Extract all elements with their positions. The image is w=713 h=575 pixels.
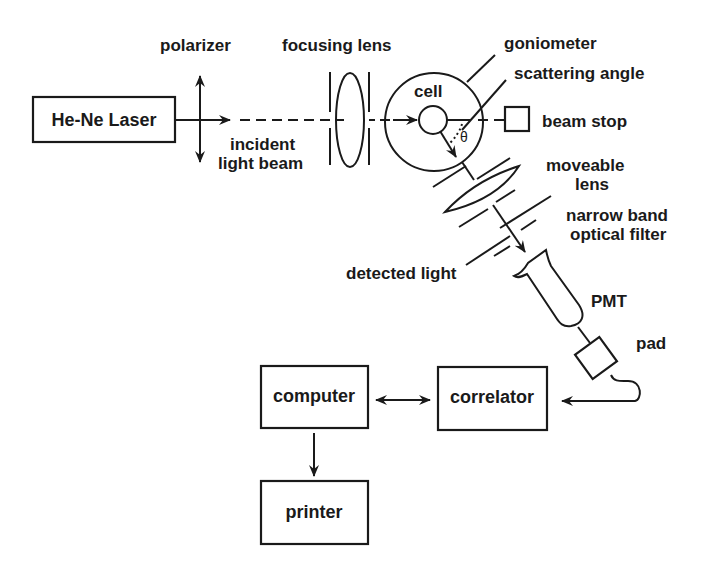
moveable-lens-label-2: lens (575, 175, 609, 194)
goniometer-label: goniometer (504, 34, 597, 53)
focusing-lens-label: focusing lens (282, 36, 392, 55)
incident-beam-label-1: incident (230, 135, 296, 154)
moveable-lens-label-1: moveable (546, 156, 624, 175)
scattering-angle-label: scattering angle (514, 64, 644, 83)
pmt-pad-connector (578, 327, 590, 343)
moveable-lens-icon (433, 158, 519, 227)
theta-symbol: θ (460, 129, 468, 145)
incident-beam-label-2: light beam (218, 154, 303, 173)
detected-light-label: detected light (346, 264, 457, 283)
computer-block: computer (261, 366, 368, 428)
laser-label: He-Ne Laser (51, 110, 156, 130)
cable-arrow-icon (562, 375, 640, 401)
pad-label: pad (636, 334, 666, 353)
light-scattering-diagram: He-Ne Laser polarizer incident light bea… (0, 0, 713, 575)
scattered-beam-arrow-icon (440, 131, 456, 157)
filter-label-2: optical filter (570, 225, 667, 244)
polarizer-label: polarizer (160, 36, 231, 55)
pad-icon (575, 337, 617, 379)
pmt-label: PMT (591, 292, 628, 311)
beam-stop-icon (505, 107, 529, 131)
scattered-beam-line (462, 162, 474, 180)
pmt-icon (514, 250, 582, 326)
beam-stop-label: beam stop (542, 112, 627, 131)
focusing-lens-icon (330, 72, 369, 167)
printer-label: printer (285, 502, 342, 522)
laser-block: He-Ne Laser (33, 97, 175, 142)
goniometer-icon (385, 55, 495, 171)
printer-block: printer (261, 481, 368, 544)
filter-label-1: narrow band (566, 206, 668, 225)
cell-label: cell (414, 82, 442, 101)
correlator-block: correlator (438, 367, 547, 430)
cell-icon (419, 106, 447, 134)
computer-label: computer (273, 386, 355, 406)
correlator-label: correlator (450, 387, 534, 407)
